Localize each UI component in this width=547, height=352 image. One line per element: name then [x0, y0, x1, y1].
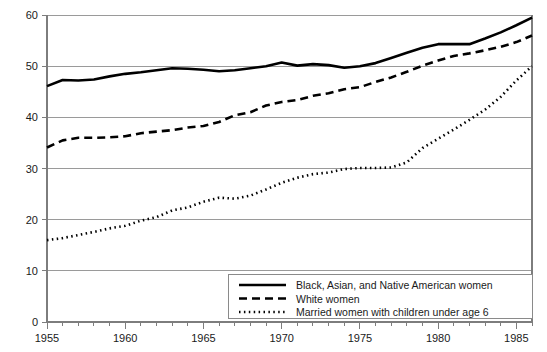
y-tick-label-60: 60: [26, 9, 38, 21]
x-tick-label-1975: 1975: [348, 332, 372, 344]
legend-label-0: Black, Asian, and Native American women: [296, 279, 493, 291]
y-tick-label-40: 40: [26, 111, 38, 123]
chart-legend: Black, Asian, and Native American womenW…: [228, 274, 532, 318]
y-tick-label-10: 10: [26, 265, 38, 277]
chart-canvas: 0102030405060 19551960196519701975198019…: [0, 0, 547, 352]
legend-label-1: White women: [296, 293, 360, 305]
x-tick-label-1980: 1980: [426, 332, 450, 344]
series-line-2: [47, 66, 532, 240]
x-tick-label-1970: 1970: [269, 332, 293, 344]
gridlines: [47, 15, 532, 271]
y-tick-label-0: 0: [32, 316, 38, 328]
data-series: [47, 18, 532, 241]
legend-label-2: Married women with children under age 6: [296, 306, 489, 318]
x-tick-label-1965: 1965: [191, 332, 215, 344]
x-tick-label-1960: 1960: [113, 332, 137, 344]
y-tick-label-30: 30: [26, 163, 38, 175]
y-axis-tick-labels: 0102030405060: [26, 9, 47, 328]
y-tick-label-20: 20: [26, 214, 38, 226]
line-chart: 0102030405060 19551960196519701975198019…: [0, 0, 547, 352]
y-tick-label-50: 50: [26, 60, 38, 72]
x-axis-tick-labels: 1955196019651970197519801985: [35, 332, 529, 344]
series-line-1: [47, 35, 532, 147]
x-axis-ticks: [47, 322, 532, 329]
x-tick-label-1985: 1985: [504, 332, 528, 344]
x-tick-label-1955: 1955: [35, 332, 59, 344]
series-line-0: [47, 18, 532, 87]
